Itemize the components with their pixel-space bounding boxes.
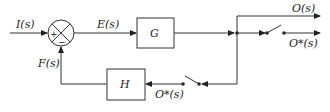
block-diagram: I(s) + − E(s) G O(s) O*(s) O*(s) H F(s): [0, 0, 330, 112]
feedback-sampler-switch: [185, 76, 199, 84]
minus-sign: −: [58, 37, 66, 47]
summing-junction: + −: [48, 20, 74, 47]
feedback-label: F(s): [37, 57, 60, 70]
input-label: I(s): [15, 18, 35, 31]
sampled-feedback-label: O*(s): [155, 88, 184, 101]
h-label: H: [119, 78, 130, 91]
feedback-signal-line: [61, 47, 107, 84]
g-label: G: [150, 27, 159, 40]
output-label: O(s): [292, 2, 315, 15]
sampled-output-label: O*(s): [289, 37, 318, 50]
error-label: E(s): [96, 18, 119, 31]
output-sampler-switch: [267, 25, 281, 33]
plus-sign: +: [50, 29, 58, 39]
